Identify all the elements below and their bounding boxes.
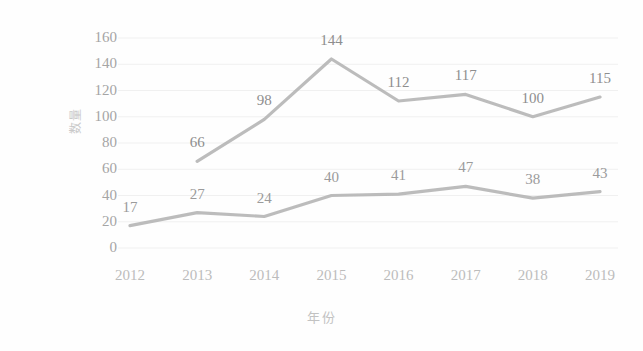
x-axis-tick-labels: 20122013201420152016201720182019: [0, 267, 643, 291]
data-label: 115: [570, 71, 630, 86]
x-axis-tick-label: 2018: [503, 267, 563, 284]
data-label: 144: [301, 33, 361, 48]
x-axis-tick-label: 2013: [167, 267, 227, 284]
data-label: 98: [234, 93, 294, 108]
data-label: 41: [369, 168, 429, 183]
data-label: 100: [503, 91, 563, 106]
data-label: 38: [503, 172, 563, 187]
data-label: 27: [167, 187, 227, 202]
data-label: 40: [301, 170, 361, 185]
data-label: 24: [234, 191, 294, 206]
data-label: 43: [570, 166, 630, 181]
x-axis-title: 年份: [0, 307, 643, 326]
x-axis-tick-label: 2015: [301, 267, 361, 284]
data-label: 17: [100, 200, 160, 215]
x-axis-tick-label: 2014: [234, 267, 294, 284]
data-label: 117: [436, 68, 496, 83]
line-chart: 数量 160140120100806040200 669814411211710…: [0, 0, 643, 351]
data-label: 47: [436, 160, 496, 175]
data-label: 112: [369, 75, 429, 90]
x-axis-tick-label: 2019: [570, 267, 630, 284]
data-label: 66: [167, 135, 227, 150]
x-axis-tick-label: 2016: [369, 267, 429, 284]
x-axis-tick-label: 2017: [436, 267, 496, 284]
x-axis-tick-label: 2012: [100, 267, 160, 284]
